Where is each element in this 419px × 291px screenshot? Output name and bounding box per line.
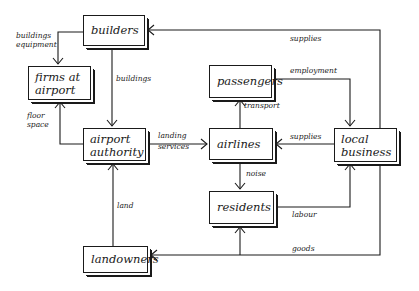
- label-line1: buildings: [16, 31, 57, 40]
- edge-label-employment: employment: [290, 66, 337, 75]
- node-landowners: landowners: [83, 246, 148, 273]
- edge-label-labour: labour: [292, 210, 317, 219]
- node-residents: residents: [209, 191, 274, 224]
- node-firms-at-airport: firms at airport: [28, 66, 91, 100]
- label-line2: equipment: [16, 40, 57, 49]
- node-label: landowners: [91, 253, 159, 266]
- node-label-line2: authority: [90, 146, 139, 159]
- edge-label-supplies-airlines: supplies: [290, 132, 321, 141]
- node-airlines: airlines: [209, 128, 273, 160]
- edge-label-buildings-equipment: buildings equipment: [16, 31, 57, 49]
- node-label: builders: [91, 24, 139, 37]
- node-label: airlines: [217, 138, 261, 151]
- node-builders: builders: [83, 15, 145, 46]
- node-airport-authority: airport authority: [83, 128, 146, 161]
- node-label-line2: airport: [35, 84, 84, 97]
- label-line2: space: [27, 120, 49, 129]
- node-label-line2: business: [341, 146, 390, 159]
- edge-label-transport: transport: [244, 101, 280, 110]
- label-line1: floor: [27, 111, 49, 120]
- node-label: residents: [217, 201, 271, 214]
- label-line1: landing: [158, 131, 189, 140]
- edge-label-floor-space: floor space: [27, 111, 49, 129]
- label-line2: services: [158, 142, 189, 151]
- edge-label-supplies-builders: supplies: [290, 34, 321, 43]
- edge-label-noise: noise: [246, 169, 266, 178]
- edge-label-land: land: [117, 201, 134, 210]
- edge-label-buildings: buildings: [116, 74, 151, 83]
- edge-label-landing-services: landing services: [158, 131, 189, 151]
- node-label: passengers: [217, 75, 283, 88]
- node-local-business: local business: [334, 128, 397, 162]
- edge-label-goods: goods: [292, 244, 314, 253]
- node-passengers: passengers: [209, 65, 272, 98]
